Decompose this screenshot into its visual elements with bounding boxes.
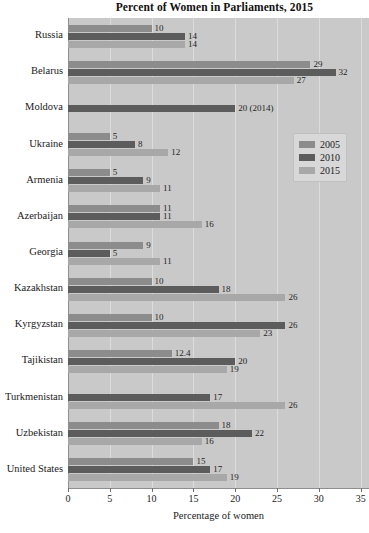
bar: [68, 105, 235, 112]
bar: [68, 242, 143, 249]
legend-label: 2015: [320, 164, 340, 177]
category-label: Uzbekistan: [0, 427, 63, 438]
x-axis-line: [68, 488, 369, 489]
category-label: Kyrgyzstan: [0, 318, 63, 329]
bar-value-label: 10: [152, 23, 164, 33]
category-label: Russia: [0, 29, 63, 40]
category-label: Georgia: [0, 246, 63, 257]
bar-value-label: 23: [260, 328, 272, 338]
legend-label: 2010: [320, 151, 340, 164]
bar-value-label: 9: [143, 175, 151, 185]
bar: [68, 286, 219, 293]
bar-value-label: 10: [152, 276, 164, 286]
category-label: Belarus: [0, 65, 63, 76]
bar: [68, 278, 152, 285]
gridline: [235, 18, 236, 488]
legend-item[interactable]: 2010: [299, 151, 340, 164]
x-tick-label: 0: [66, 493, 71, 504]
bar: [68, 366, 227, 373]
bar-value-label: 12: [168, 147, 180, 157]
bar-value-label: 26: [285, 400, 297, 410]
bar: [68, 430, 252, 437]
bar: [68, 258, 160, 265]
bar-value-label: 5: [110, 167, 118, 177]
bar-value-label: 8: [135, 139, 143, 149]
bar: [68, 358, 235, 365]
legend-label: 2005: [320, 138, 340, 151]
chart-legend: 200520102015: [293, 133, 347, 182]
category-label: United States: [0, 463, 63, 474]
x-axis-label: Percentage of women: [68, 510, 369, 521]
x-tick-mark: [193, 488, 194, 492]
x-tick-label: 15: [188, 493, 198, 504]
legend-swatch: [299, 154, 315, 161]
bar: [68, 322, 285, 329]
bar-value-label: 14: [185, 39, 197, 49]
bar: [68, 185, 160, 192]
x-tick-label: 35: [356, 493, 366, 504]
bar-value-label: 17: [210, 464, 222, 474]
x-tick-mark: [152, 488, 153, 492]
x-tick-mark: [319, 488, 320, 492]
bar: [68, 149, 168, 156]
bar: [68, 466, 210, 473]
category-label: Moldova: [0, 101, 63, 112]
bar: [68, 177, 143, 184]
x-tick-mark: [235, 488, 236, 492]
bar: [68, 422, 219, 429]
bar-value-label: 26: [285, 292, 297, 302]
bar-value-label: 27: [294, 75, 306, 85]
x-tick-mark: [277, 488, 278, 492]
bar-value-label: 29: [310, 59, 322, 69]
bar-value-label: 5: [110, 248, 118, 258]
bar-value-label: 15: [193, 456, 205, 466]
x-tick-label: 5: [107, 493, 112, 504]
bar: [68, 438, 202, 445]
bar: [68, 141, 135, 148]
category-label: Ukraine: [0, 138, 63, 149]
gridline: [277, 18, 278, 488]
bar: [68, 350, 172, 357]
chart-container: Percent of Women in Parliaments, 2015 05…: [0, 0, 369, 533]
bar-value-label: 11: [160, 256, 172, 266]
legend-item[interactable]: 2005: [299, 138, 340, 151]
bar: [68, 41, 185, 48]
x-tick-label: 20: [230, 493, 240, 504]
bar: [68, 250, 110, 257]
bar-value-label: 17: [210, 392, 222, 402]
bar-value-label: 16: [202, 436, 214, 446]
bar: [68, 330, 260, 337]
x-tick-label: 30: [314, 493, 324, 504]
bar-value-label: 18: [219, 420, 231, 430]
gridline: [319, 18, 320, 488]
bar-value-label: 11: [160, 183, 172, 193]
legend-swatch: [299, 141, 315, 148]
bar: [68, 394, 210, 401]
bar: [68, 402, 285, 409]
bar-value-label: 12.4: [172, 348, 191, 358]
bar-value-label: 19: [227, 364, 239, 374]
bar: [68, 458, 193, 465]
bar: [68, 213, 160, 220]
bar-value-label: 16: [202, 219, 214, 229]
x-tick-mark: [361, 488, 362, 492]
category-label: Azerbaijan: [0, 210, 63, 221]
bar-value-label: 26: [285, 320, 297, 330]
bar-value-label: 5: [110, 131, 118, 141]
x-tick-label: 10: [147, 493, 157, 504]
bar: [68, 61, 310, 68]
bar-value-label: 11: [160, 211, 172, 221]
x-tick-mark: [68, 488, 69, 492]
legend-item[interactable]: 2015: [299, 164, 340, 177]
bar: [68, 314, 152, 321]
category-label: Armenia: [0, 174, 63, 185]
category-label: Turkmenistan: [0, 391, 63, 402]
bar-value-label: 18: [219, 284, 231, 294]
bar: [68, 25, 152, 32]
bar-value-label: 20 (2014): [235, 103, 273, 113]
gridline: [193, 18, 194, 488]
bar-value-label: 19: [227, 472, 239, 482]
bar: [68, 169, 110, 176]
x-tick-mark: [110, 488, 111, 492]
bar: [68, 474, 227, 481]
